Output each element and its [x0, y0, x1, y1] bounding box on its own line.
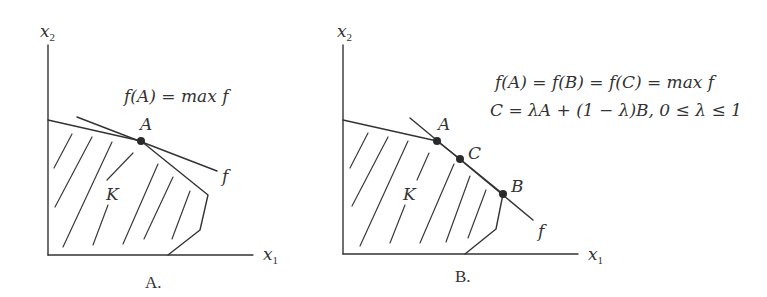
point-c-marker [456, 155, 464, 163]
x-axis-label: x1 [263, 244, 278, 266]
objective-f-label: f [536, 221, 547, 241]
figure-canvas: A f K f(A) = max f x2 x1 A. [0, 0, 767, 297]
panel-a: A f K f(A) = max f x2 x1 A. [40, 21, 278, 292]
point-a-label: A [138, 114, 152, 134]
panel-b-caption: B. [455, 267, 471, 286]
region-k-hatch [54, 134, 190, 247]
region-k-hatch [350, 133, 486, 246]
panel-a-caption: A. [145, 273, 162, 292]
point-b-marker [499, 190, 507, 198]
point-a-marker [137, 137, 145, 145]
panel-a-annotation: f(A) = max f [122, 86, 231, 106]
region-k-boundary [48, 120, 208, 255]
y-axis-label: x2 [40, 21, 55, 43]
region-k-boundary [343, 120, 503, 254]
panel-b-annotation-line2: C = λA + (1 − λ)B, 0 ≤ λ ≤ 1 [490, 100, 742, 120]
point-c-label: C [468, 143, 481, 163]
objective-line-f [410, 118, 533, 220]
panel-b: A C B f K f(A) = f(B) = f(C) = max f C =… [337, 21, 742, 286]
region-k-label: K [105, 184, 120, 204]
point-a-label: A [436, 114, 450, 134]
point-b-label: B [510, 176, 524, 196]
point-a-marker [433, 137, 441, 145]
region-k-label: K [402, 184, 417, 204]
y-axis-label: x2 [337, 21, 352, 43]
x-axis-label: x1 [588, 244, 603, 266]
objective-f-label: f [220, 166, 231, 186]
panel-b-annotation-line1: f(A) = f(B) = f(C) = max f [493, 72, 717, 92]
